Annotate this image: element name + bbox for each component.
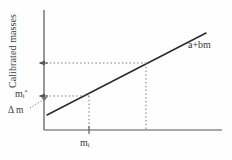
delta-m-arrowhead-icon xyxy=(41,97,47,101)
y-axis-title-text: Calibrated masses xyxy=(8,14,18,88)
x-point-base: m xyxy=(80,137,88,148)
curve-equation-label: a+bm xyxy=(188,40,211,50)
calibration-line xyxy=(47,33,206,115)
delta-m-label: Δ m xyxy=(8,106,23,116)
calibration-curve-figure: Calibrated masses a+bm mi mi* Δ m xyxy=(0,0,232,160)
x-point-label: mi xyxy=(80,138,90,149)
y-point-base: m xyxy=(15,88,23,99)
y-point-label: mi* xyxy=(15,89,28,100)
y-point-superscript: * xyxy=(25,88,28,95)
y-axis-title: Calibrated masses xyxy=(6,3,20,99)
upper-guide-arrowhead-icon xyxy=(39,60,46,65)
plot-canvas xyxy=(0,0,232,160)
x-point-subscript: i xyxy=(88,141,90,148)
